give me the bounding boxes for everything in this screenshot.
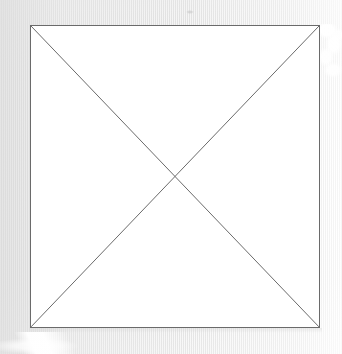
placeholder-diagonals (31, 26, 319, 327)
broken-image-placeholder (30, 25, 320, 328)
scan-canvas (0, 0, 342, 354)
